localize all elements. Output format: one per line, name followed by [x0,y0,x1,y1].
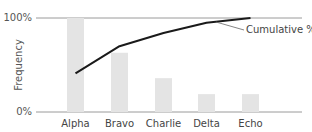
bar-charlie [155,78,172,112]
x-label-bravo: Bravo [105,118,134,129]
chart-canvas: Cumulative % 100% 0% Frequency AlphaBrav… [0,0,312,132]
bar-bravo [111,53,128,112]
x-label-echo: Echo [238,118,262,129]
x-axis-labels: AlphaBravoCharlieDeltaEcho [61,118,262,129]
y-axis-title: Frequency [13,39,24,91]
annotation-label: Cumulative % [246,24,312,35]
bar-alpha [67,18,84,112]
y-tick-100: 100% [3,12,32,23]
bar-delta [198,94,215,112]
x-label-alpha: Alpha [61,118,89,129]
y-tick-0: 0% [16,106,32,117]
x-label-delta: Delta [193,118,220,129]
bar-echo [242,94,259,112]
bar-series [67,18,259,112]
x-label-charlie: Charlie [146,118,181,129]
pareto-chart: Cumulative % 100% 0% Frequency AlphaBrav… [0,0,312,132]
cumulative-line [76,18,251,73]
annotation-leader [216,22,244,30]
